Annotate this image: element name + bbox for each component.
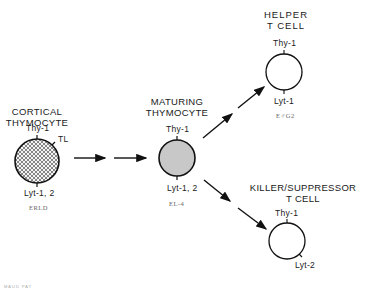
footer-watermark: MAUD PAT	[4, 284, 32, 289]
cell-line-label: EL-4	[169, 198, 184, 209]
cortical-thymocyte-cell	[15, 135, 59, 187]
differentiation-diagram	[0, 0, 366, 293]
title-line: HELPER	[253, 9, 319, 20]
title-line: T CELL	[244, 193, 362, 204]
title-line: CORTICAL	[5, 106, 69, 117]
arrow-icon	[238, 87, 264, 108]
maturing-thymocyte-cell	[159, 136, 195, 180]
lyt12-label: Lyt-1, 2	[167, 183, 197, 194]
arrow-icon	[238, 208, 266, 229]
title-line: THYMOCYTE	[145, 107, 209, 118]
title-line: MATURING	[145, 96, 209, 107]
thy1-label: Thy-1	[273, 38, 296, 49]
thy1-label: Thy-1	[275, 208, 298, 219]
helper-title: HELPER T CELL	[253, 9, 319, 31]
lyt1-label: Lyt-1	[274, 96, 294, 107]
tl-label: TL	[58, 134, 69, 145]
title-line: T CELL	[253, 20, 319, 31]
thy1-label: Thy-1	[166, 124, 189, 135]
maturing-title: MATURING THYMOCYTE	[145, 96, 209, 118]
arrow-icon	[204, 180, 230, 201]
lyt2-label: Lyt-2	[295, 260, 315, 271]
cell-line-label: E♂G2	[276, 110, 295, 121]
helper-t-cell	[266, 50, 302, 94]
thy1-label: Thy-1	[26, 123, 49, 134]
killer-suppressor-title: KILLER/SUPPRESSOR T CELL	[244, 182, 362, 204]
killer-suppressor-t-cell	[269, 219, 305, 259]
tl-receptor	[52, 142, 55, 145]
title-line: KILLER/SUPPRESSOR	[244, 182, 362, 193]
cell-line-label: ERLD	[29, 202, 48, 213]
lyt12-label: Lyt-1, 2	[24, 188, 54, 199]
lyt2-receptor	[299, 254, 302, 257]
